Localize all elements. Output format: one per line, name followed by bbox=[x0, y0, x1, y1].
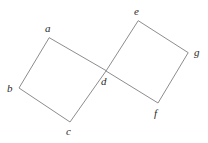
vertex-label-d: d bbox=[101, 76, 107, 87]
figure-svg bbox=[0, 0, 208, 143]
vertex-label-a: a bbox=[45, 23, 51, 34]
right-square-outline bbox=[106, 21, 188, 103]
vertex-label-e: e bbox=[134, 6, 139, 17]
vertex-label-f: f bbox=[154, 108, 157, 119]
left-square-outline bbox=[19, 38, 106, 122]
vertex-label-b: b bbox=[7, 83, 13, 94]
geometry-figure: a b c d e f g bbox=[0, 0, 208, 143]
vertex-label-g: g bbox=[194, 47, 200, 58]
vertex-label-c: c bbox=[66, 126, 71, 137]
